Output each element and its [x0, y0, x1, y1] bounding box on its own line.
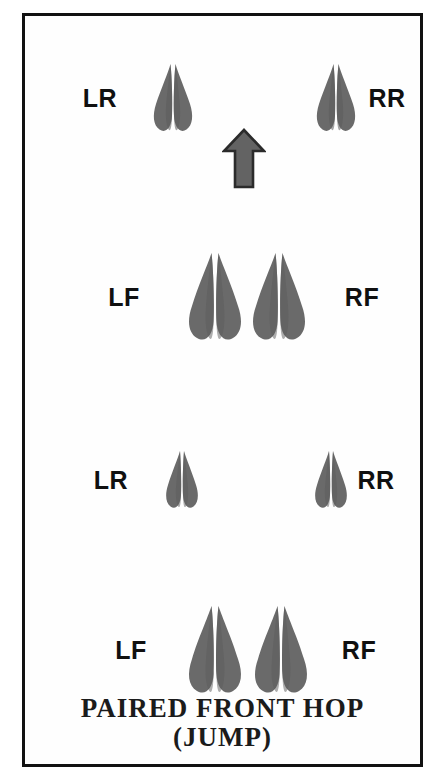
deer-track-pattern-figure: LR: [0, 0, 435, 778]
track-label-left-rear-3: LR: [94, 468, 128, 493]
caption-subtitle: (JUMP): [25, 723, 420, 752]
hoof-half-right: [216, 606, 241, 692]
track-field: LR: [25, 16, 420, 764]
left-rear-track-1: [146, 61, 200, 135]
track-label-right-front-4: RF: [342, 638, 376, 663]
figure-caption: PAIRED FRONT HOP (JUMP): [25, 694, 420, 752]
right-rear-track-3: [308, 448, 354, 512]
hoof-half-right: [280, 253, 305, 339]
right-rear-track-1: [309, 61, 363, 135]
track-label-right-front-2: RF: [345, 285, 379, 310]
hoof-half-left: [315, 451, 330, 508]
hoof-half-right: [216, 253, 241, 339]
track-label-left-front-2: LF: [108, 285, 140, 310]
caption-title: PAIRED FRONT HOP: [25, 694, 420, 723]
hoof-half-right: [332, 451, 347, 508]
hoof-half-right: [183, 451, 198, 508]
hoof-half-left: [189, 253, 214, 339]
figure-plate-border: LR: [22, 13, 423, 767]
direction-arrow-icon: [222, 128, 266, 190]
track-label-left-rear-1: LR: [83, 86, 117, 111]
left-rear-track-3: [159, 448, 205, 512]
left-front-track-2: [180, 249, 250, 345]
right-front-track-2: [244, 249, 314, 345]
left-front-track-4: [180, 602, 250, 698]
hoof-half-left: [189, 606, 214, 692]
hoof-half-left: [253, 253, 278, 339]
hoof-half-right: [174, 64, 192, 131]
hoof-half-right: [337, 64, 355, 131]
hoof-half-left: [255, 606, 280, 692]
hoof-half-left: [317, 64, 335, 131]
track-label-right-rear-3: RR: [357, 468, 394, 493]
track-label-right-rear-1: RR: [368, 86, 405, 111]
right-front-track-4: [246, 602, 316, 698]
hoof-half-right: [282, 606, 307, 692]
track-label-left-front-4: LF: [115, 638, 147, 663]
hoof-half-left: [154, 64, 172, 131]
hoof-half-left: [166, 451, 181, 508]
